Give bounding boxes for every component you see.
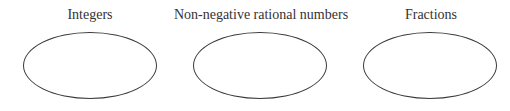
set-label-integers: Integers [67, 7, 112, 23]
set-ellipse-fractions [363, 32, 497, 99]
set-ellipse-non-negative-rationals [193, 32, 327, 99]
set-ellipse-integers [23, 32, 157, 99]
set-label-non-negative-rationals: Non-negative rational numbers [174, 7, 348, 23]
set-label-fractions: Fractions [405, 7, 457, 23]
